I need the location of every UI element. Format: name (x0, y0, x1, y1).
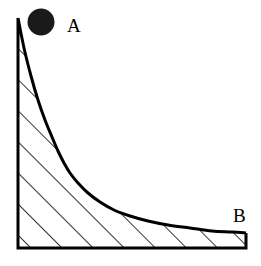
label-point-b: B (233, 206, 246, 225)
diagram-canvas (0, 0, 261, 266)
label-point-a: A (67, 16, 81, 35)
ball-at-a (28, 9, 55, 36)
physics-diagram: A B (0, 0, 261, 266)
hatch-fill (0, 0, 261, 266)
